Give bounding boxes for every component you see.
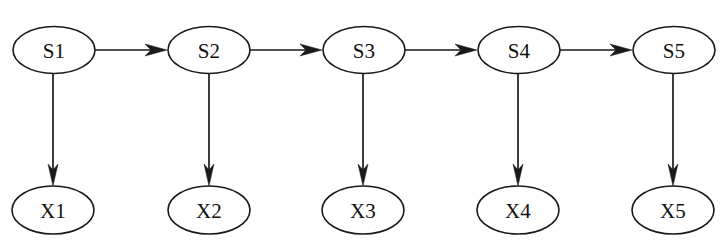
diagram-canvas: S1 S2 S3 S4 S5 X1 [0, 0, 721, 249]
emission-edge-s5-x5 [668, 74, 678, 186]
state-observation-graph: S1 S2 S3 S4 S5 X1 [0, 0, 721, 249]
node-label: X1 [40, 199, 66, 223]
transition-edge-s4-s5 [560, 44, 632, 56]
node-label: S1 [43, 39, 66, 63]
node-label: S3 [353, 39, 376, 63]
node-label: X4 [505, 199, 531, 223]
transition-edge-s2-s3 [250, 44, 322, 56]
state-node-s1[interactable]: S1 [13, 27, 95, 74]
state-node-s4[interactable]: S4 [478, 27, 560, 74]
state-node-s3[interactable]: S3 [323, 27, 405, 74]
observation-node-x2[interactable]: X2 [168, 186, 250, 234]
state-node-s2[interactable]: S2 [168, 27, 250, 74]
node-label: X5 [660, 199, 686, 223]
observation-node-x5[interactable]: X5 [632, 186, 714, 234]
emission-edge-group [48, 74, 678, 186]
transition-edge-s3-s4 [405, 44, 477, 56]
observation-node-x1[interactable]: X1 [12, 186, 94, 234]
emission-edge-s3-x3 [358, 74, 368, 186]
observation-node-x3[interactable]: X3 [322, 186, 404, 234]
emission-edge-s1-x1 [48, 74, 58, 186]
node-label: S5 [663, 39, 686, 63]
node-label: S2 [198, 39, 221, 63]
node-label: X3 [350, 199, 376, 223]
transition-edge-s1-s2 [95, 44, 167, 56]
observation-node-x4[interactable]: X4 [477, 186, 559, 234]
state-node-s5[interactable]: S5 [633, 27, 715, 74]
node-label: X2 [196, 199, 222, 223]
emission-edge-s2-x2 [204, 74, 214, 186]
node-label: S4 [508, 39, 531, 63]
emission-edge-s4-x4 [513, 74, 523, 186]
observation-node-group: X1 X2 X3 X4 X5 [12, 186, 714, 234]
